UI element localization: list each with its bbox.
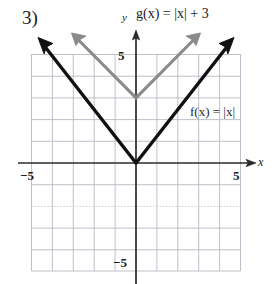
axes (18, 30, 256, 284)
f-function-equation-label: f(x) = |x| (190, 105, 235, 118)
x-axis-tick-label-5: 5 (233, 169, 240, 182)
problem-number-label: 3) (22, 8, 38, 27)
y-axis-tick-label-5: 5 (118, 49, 125, 62)
x-axis-label: x (258, 156, 263, 168)
g-function-equation-label: g(x) = |x| + 3 (136, 7, 209, 21)
y-axis-label: y (122, 12, 127, 23)
g-curve-left-branch (78, 40, 136, 98)
g-curve-right-branch (136, 40, 194, 98)
coordinate-plane-svg (0, 0, 275, 284)
y-axis-tick-label-negative-5: −5 (113, 256, 127, 269)
graph-figure: 3) y g(x) = |x| + 3 f(x) = |x| x 5 −5 −5… (0, 0, 275, 284)
f-curve-left-branch (46, 48, 136, 163)
x-axis-tick-label-negative-5: −5 (20, 169, 34, 182)
